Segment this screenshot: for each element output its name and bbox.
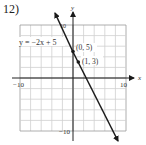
point-0-5 bbox=[71, 50, 75, 54]
x-axis-label: x bbox=[137, 74, 142, 82]
point-1-3 bbox=[77, 60, 81, 64]
equation-label: y = −2x + 5 bbox=[19, 38, 57, 47]
y-axis-label: y bbox=[70, 4, 75, 12]
point-0-5-label: (0, 5) bbox=[76, 43, 93, 52]
x-min-label: −10 bbox=[13, 81, 24, 89]
coordinate-plane: x y −10 10 10 −10 y = −2x + 5 (0, 5) (1,… bbox=[0, 0, 146, 145]
x-max-label: 10 bbox=[120, 81, 128, 89]
point-1-3-label: (1, 3) bbox=[82, 57, 99, 66]
y-min-label: −10 bbox=[59, 128, 70, 136]
